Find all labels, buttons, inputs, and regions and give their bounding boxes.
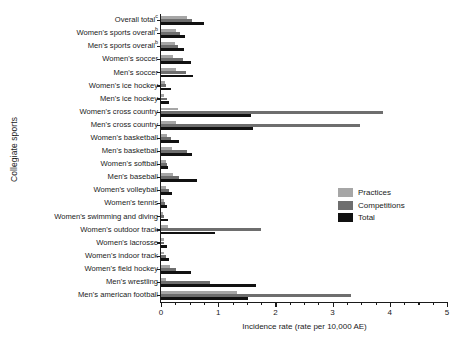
x-axis-minor-tick: [247, 302, 248, 305]
x-axis-major-tick: [275, 302, 276, 307]
category-label: Men's ice hockey: [24, 95, 158, 103]
bar-group: [161, 158, 447, 171]
bar-total: [161, 245, 167, 248]
bar-total: [161, 232, 215, 235]
x-axis-minor-tick: [304, 302, 305, 305]
x-axis-tick-label: 2: [273, 308, 277, 317]
legend-swatch-total: [338, 213, 353, 222]
bar-total: [161, 179, 197, 182]
bar-group: [161, 93, 447, 106]
category-label-superscript: b: [155, 27, 158, 33]
bar-group: [161, 132, 447, 145]
x-axis-minor-tick: [376, 302, 377, 305]
bar-total: [161, 101, 169, 104]
bar-group: [161, 66, 447, 79]
x-axis-minor-tick: [418, 302, 419, 305]
bar-group: [161, 250, 447, 263]
category-label: Women's softball: [24, 160, 158, 168]
category-label: Women's ice hockey: [24, 82, 158, 90]
category-label-superscript: c: [155, 14, 158, 20]
category-label: Women's sports overallb: [24, 29, 158, 37]
x-axis-tick-label: 1: [216, 308, 220, 317]
category-label-list: Overall totalcWomen's sports overallbMen…: [24, 14, 158, 302]
bar-group: [161, 145, 447, 158]
x-axis-tick-label: 3: [330, 308, 334, 317]
x-axis-minor-tick: [361, 302, 362, 305]
category-label: Men's basketball: [24, 147, 158, 155]
legend-label-competitions: Competitions: [358, 201, 405, 210]
bar-group: [161, 119, 447, 132]
bar-group: [161, 106, 447, 119]
bar-total: [161, 35, 185, 38]
x-axis-minor-tick: [404, 302, 405, 305]
bar-total: [161, 61, 191, 64]
x-axis-tick-label: 5: [445, 308, 449, 317]
category-label: Women's swimming and diving: [24, 213, 158, 221]
x-axis-minor-tick: [433, 302, 434, 305]
category-label: Men's sports overallb: [24, 42, 158, 50]
category-label: Overall totalc: [24, 16, 158, 24]
bar-group: [161, 237, 447, 250]
x-axis-minor-tick: [190, 302, 191, 305]
legend-label-practices: Practices: [358, 188, 391, 197]
legend-label-total: Total: [358, 213, 375, 222]
category-label: Women's soccer: [24, 55, 158, 63]
bar-group: [161, 289, 447, 302]
bar-group: [161, 27, 447, 40]
bar-total: [161, 127, 253, 130]
bar-total: [161, 48, 184, 51]
x-axis-minor-tick: [233, 302, 234, 305]
category-label: Women's lacrosse: [24, 239, 158, 247]
category-label: Men's baseball: [24, 173, 158, 181]
category-label: Women's volleyball: [24, 186, 158, 194]
category-label: Women's tennis: [24, 199, 158, 207]
legend-item-competitions: Competitions: [338, 201, 405, 210]
x-axis-minor-tick: [347, 302, 348, 305]
y-axis-title-text: Collegiate sports: [9, 117, 19, 182]
category-label: Men's american football: [24, 291, 158, 299]
x-axis-minor-tick: [261, 302, 262, 305]
category-label: Women's basketball: [24, 134, 158, 142]
bar-total: [161, 166, 168, 169]
x-axis-major-tick: [390, 302, 391, 307]
x-axis-tick-label: 4: [388, 308, 392, 317]
y-axis-title: Collegiate sports: [6, 0, 22, 300]
bar-total: [161, 258, 169, 261]
x-axis-minor-tick: [204, 302, 205, 305]
bar-group: [161, 263, 447, 276]
bar-total: [161, 297, 248, 300]
bar-total: [161, 88, 171, 91]
category-label: Women's indoor track: [24, 252, 158, 260]
category-label: Women's cross country: [24, 108, 158, 116]
bar-total: [161, 284, 256, 287]
x-axis-major-tick: [447, 302, 448, 307]
legend-item-practices: Practices: [338, 188, 405, 197]
bar-total: [161, 205, 167, 208]
category-label: Women's outdoor track: [24, 226, 158, 234]
category-label-superscript: b: [155, 40, 158, 46]
bar-group: [161, 171, 447, 184]
x-axis-major-tick: [218, 302, 219, 307]
x-axis-minor-tick: [175, 302, 176, 305]
category-label: Men's wrestling: [24, 278, 158, 286]
chart-legend: PracticesCompetitionsTotal: [338, 188, 405, 226]
bar-total: [161, 219, 168, 222]
legend-swatch-competitions: [338, 201, 353, 210]
bar-group: [161, 79, 447, 92]
x-axis-title: Incidence rate (rate per 10,000 AE): [161, 322, 448, 331]
legend-item-total: Total: [338, 213, 405, 222]
bar-group: [161, 276, 447, 289]
bar-group: [161, 53, 447, 66]
x-axis-tick-labels: 012345: [161, 308, 448, 320]
bar-total: [161, 140, 179, 143]
bar-total: [161, 153, 192, 156]
incidence-rate-bar-chart: Collegiate sports Overall totalcWomen's …: [0, 0, 457, 345]
category-label: Women's field hockey: [24, 265, 158, 273]
bar-total: [161, 22, 204, 25]
category-label: Men's cross country: [24, 121, 158, 129]
bar-total: [161, 271, 191, 274]
category-label: Men's soccer: [24, 69, 158, 77]
x-axis-major-tick: [161, 302, 162, 307]
bar-group: [161, 40, 447, 53]
x-axis-minor-tick: [290, 302, 291, 305]
